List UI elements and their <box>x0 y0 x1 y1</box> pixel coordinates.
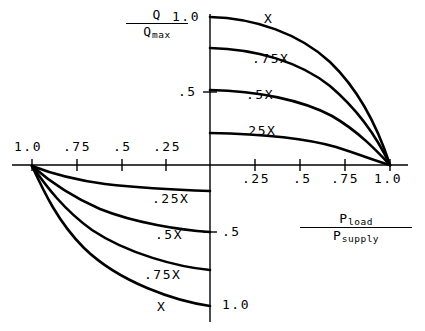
curve-label-25X-upper: .25X <box>239 124 276 137</box>
x-axis-denominator-subscript: supply <box>342 233 379 244</box>
curve-label-75X-lower: .75X <box>144 268 181 281</box>
curves-upper-right <box>210 17 390 165</box>
chart-plot-area <box>0 0 425 331</box>
x-tick-label-right-0.5: .5 <box>293 172 312 185</box>
y-axis-denominator-subscript: max <box>152 29 171 40</box>
curve-label-5X-upper: .5X <box>246 88 274 101</box>
curve-label-25X-lower: .25X <box>152 192 189 205</box>
x-tick-label-right-0.75: .75 <box>331 172 359 185</box>
y-tick-label-1.0: 1.0 <box>172 10 200 23</box>
x-axis-numerator: Pload <box>300 212 412 226</box>
curves-lower-left <box>32 166 210 306</box>
x-tick-label-left-1.0: 1.0 <box>14 140 42 153</box>
curve-label-5X-lower: .5X <box>155 228 183 241</box>
y-axis-denominator: Qmax <box>126 25 188 39</box>
y-tick-label-0.5-upper: .5 <box>178 85 197 98</box>
x-tick-label-right-1.0: 1.0 <box>374 172 402 185</box>
curve-5X <box>210 90 390 165</box>
x-axis-label: Pload Psupply <box>300 212 412 243</box>
curve-label-X-upper: X <box>264 12 273 25</box>
x-tick-label-right-0.25: .25 <box>242 172 270 185</box>
x-axis-numerator-subscript: load <box>348 216 373 227</box>
x-tick-label-left-0.25: .25 <box>153 140 181 153</box>
curve-label-X-lower: X <box>157 300 166 313</box>
y-tick-label-0.5-lower: .5 <box>222 225 241 238</box>
chart-container: Q Qmax Pload Psupply 1.0 .5 .5 1.0 1.0 .… <box>0 0 425 331</box>
y-tick-label-1.0-lower: 1.0 <box>222 298 250 311</box>
x-axis-denominator: Psupply <box>300 229 412 243</box>
x-tick-label-left-0.75: .75 <box>63 140 91 153</box>
curve-label-75X-upper: .75X <box>252 52 289 65</box>
x-tick-label-left-0.5: .5 <box>113 140 132 153</box>
